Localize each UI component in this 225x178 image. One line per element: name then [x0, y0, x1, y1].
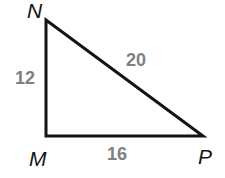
side-length-label-mn: 12	[15, 69, 35, 87]
vertex-label-m: M	[29, 148, 47, 169]
triangle-outline-shape	[46, 20, 203, 136]
side-length-label-mp: 16	[107, 145, 127, 163]
triangle-figure: N M P 12 20 16	[0, 0, 225, 178]
side-length-label-np: 20	[126, 51, 146, 69]
vertex-label-n: N	[27, 0, 42, 21]
vertex-label-p: P	[198, 146, 212, 167]
